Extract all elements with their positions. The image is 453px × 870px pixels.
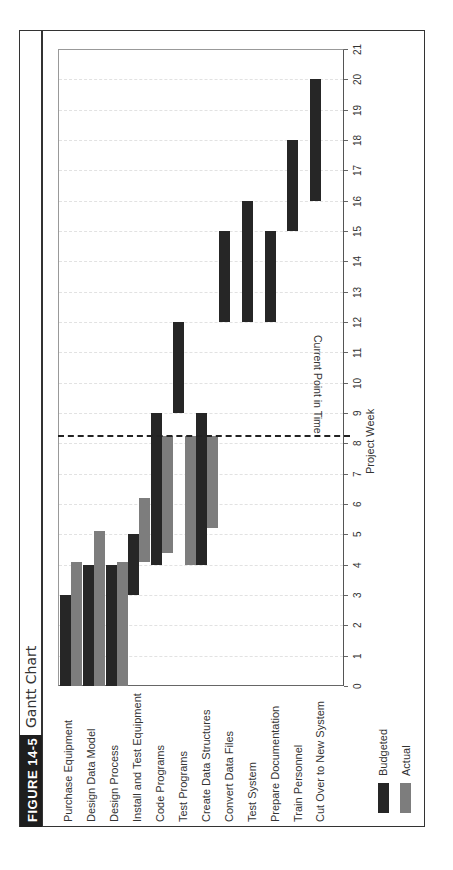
task-label: Train Personnel	[292, 745, 304, 822]
task-label: Design Data Model	[85, 728, 97, 822]
gridline	[59, 292, 343, 293]
legend-swatch-actual	[400, 783, 411, 813]
budgeted-bar	[128, 534, 139, 595]
tick-mark	[344, 170, 348, 171]
current-point-label: Current Point in Time	[312, 335, 324, 434]
gridline	[59, 201, 343, 202]
actual-bar	[117, 562, 128, 686]
tick-label: 8	[352, 441, 363, 447]
tick-mark	[344, 383, 348, 384]
task-label: Install and Test Equipment	[131, 693, 143, 822]
figure-label: FIGURE 14-5	[25, 738, 40, 822]
legend-swatch-budgeted	[378, 783, 389, 813]
tick-mark	[344, 79, 348, 80]
tick-mark	[344, 595, 348, 596]
tick-label: 5	[352, 532, 363, 538]
tick-label: 0	[352, 683, 363, 689]
tick-label: 15	[352, 226, 363, 237]
legend-label-actual: Actual	[400, 745, 412, 776]
tick-mark	[344, 686, 348, 687]
tick-label: 17	[352, 165, 363, 176]
tick-mark	[344, 443, 348, 444]
task-label: Create Data Structures	[200, 710, 212, 823]
current-point-line	[58, 435, 350, 437]
figure-title: Gantt Chart	[23, 646, 39, 728]
actual-bar	[94, 531, 105, 686]
tick-label: 3	[352, 592, 363, 598]
tick-mark	[344, 49, 348, 50]
task-label: Cut Over to New System	[314, 701, 326, 822]
budgeted-bar	[219, 231, 230, 322]
gridline	[59, 140, 343, 141]
tick-label: 4	[352, 562, 363, 568]
tick-mark	[344, 261, 348, 262]
actual-bar	[162, 436, 173, 552]
actual-bar	[139, 498, 150, 562]
actual-bar	[71, 562, 82, 686]
actual-bar	[185, 436, 196, 565]
tick-label: 2	[352, 623, 363, 629]
tick-label: 13	[352, 287, 363, 298]
task-label: Test Programs	[177, 751, 189, 822]
tick-label: 7	[352, 471, 363, 477]
tick-label: 14	[352, 256, 363, 267]
budgeted-bar	[106, 565, 117, 686]
tick-label: 12	[352, 317, 363, 328]
tick-label: 10	[352, 378, 363, 389]
tick-label: 11	[352, 348, 363, 358]
tick-label: 21	[352, 44, 363, 55]
budgeted-bar	[310, 79, 321, 200]
tick-label: 19	[352, 105, 363, 116]
gridline	[59, 322, 343, 323]
tick-mark	[344, 565, 348, 566]
gridline	[59, 110, 343, 111]
tick-mark	[344, 352, 348, 353]
tick-label: 1	[352, 653, 363, 659]
tick-label: 16	[352, 196, 363, 207]
gridline	[59, 261, 343, 262]
tick-mark	[344, 140, 348, 141]
tick-mark	[344, 110, 348, 111]
tick-mark	[344, 322, 348, 323]
legend-label-budgeted: Budgeted	[377, 729, 389, 776]
task-label: Design Process	[108, 745, 120, 822]
tick-mark	[344, 201, 348, 202]
tick-label: 9	[352, 410, 363, 416]
budgeted-bar	[265, 231, 276, 322]
tick-mark	[344, 504, 348, 505]
budgeted-bar	[242, 201, 253, 322]
budgeted-bar	[60, 595, 71, 686]
gridline	[59, 79, 343, 80]
tick-mark	[344, 474, 348, 475]
budgeted-bar	[287, 140, 298, 231]
header-divider	[41, 30, 43, 827]
task-label: Purchase Equipment	[62, 720, 74, 822]
task-label: Code Programs	[154, 745, 166, 822]
tick-mark	[344, 534, 348, 535]
budgeted-bar	[173, 322, 184, 413]
tick-mark	[344, 656, 348, 657]
tick-label: 6	[352, 501, 363, 507]
tick-mark	[344, 413, 348, 414]
tick-label: 20	[352, 74, 363, 85]
gridline	[59, 383, 343, 384]
tick-label: 18	[352, 135, 363, 146]
gridline	[59, 170, 343, 171]
tick-mark	[344, 625, 348, 626]
gridline	[59, 352, 343, 353]
actual-bar	[207, 436, 218, 528]
tick-mark	[344, 231, 348, 232]
task-label: Test System	[246, 762, 258, 822]
x-axis-title: Project Week	[364, 409, 376, 474]
tick-mark	[344, 292, 348, 293]
budgeted-bar	[83, 565, 94, 686]
task-label: Prepare Documentation	[269, 706, 281, 822]
task-label: Convert Data Files	[223, 731, 235, 822]
gridline	[59, 231, 343, 232]
